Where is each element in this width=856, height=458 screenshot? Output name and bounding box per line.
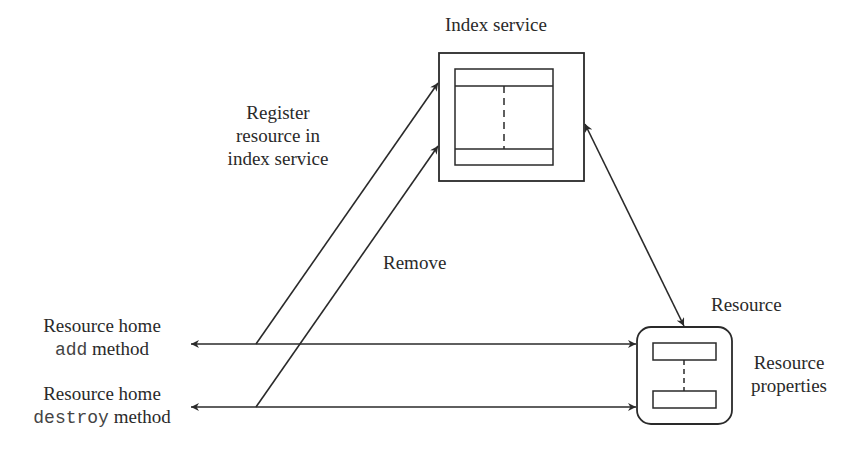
destroy-method-line1: Resource home [12,382,192,405]
destroy-method-label: Resource home destroy method [12,382,192,430]
resource-properties-line1: Resource [744,351,834,374]
remove-label: Remove [383,251,446,274]
resource-properties-label: Resource properties [744,351,834,397]
resource-properties-line2: properties [744,374,834,397]
resource-label: Resource [711,293,782,316]
index-service-label: Index service [445,13,547,36]
index-service-box [439,53,584,181]
add-method-label: Resource home add method [22,314,182,362]
destroy-method-suffix: method [109,406,171,427]
index-resource-arrow [585,124,684,326]
register-label: Register resource in index service [212,101,344,170]
remove-arrow [256,146,438,407]
register-label-line3: index service [212,147,344,170]
register-label-line1: Register [212,101,344,124]
resource-box [637,327,732,424]
destroy-method-code: destroy [33,408,109,428]
add-method-suffix: method [87,338,149,359]
register-label-line2: resource in [212,124,344,147]
add-method-code: add [55,340,87,360]
add-method-line1: Resource home [22,314,182,337]
